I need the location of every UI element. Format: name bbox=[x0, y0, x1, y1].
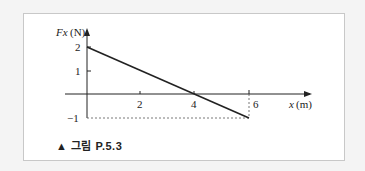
force-line bbox=[87, 47, 249, 118]
y-tick-label-1: 1 bbox=[75, 65, 81, 77]
y-axis-label: Fx bbox=[55, 26, 68, 38]
x-tick-label-6: 6 bbox=[253, 98, 259, 110]
figure-caption: ▲ 그림 P.5.3 bbox=[56, 137, 122, 153]
y-axis-unit: (N) bbox=[70, 26, 86, 39]
x-tick-label-4: 4 bbox=[191, 98, 197, 110]
y-tick-label-minus1: −1 bbox=[67, 112, 79, 124]
x-axis-label: x bbox=[288, 98, 294, 110]
y-tick-label-2: 2 bbox=[75, 41, 81, 53]
force-position-chart: 2 4 6 2 1 −1 Fx (N) x (m) bbox=[0, 0, 365, 171]
x-axis-arrow-icon bbox=[304, 91, 312, 97]
x-tick-label-2: 2 bbox=[137, 98, 143, 110]
x-axis-unit: (m) bbox=[296, 98, 312, 111]
